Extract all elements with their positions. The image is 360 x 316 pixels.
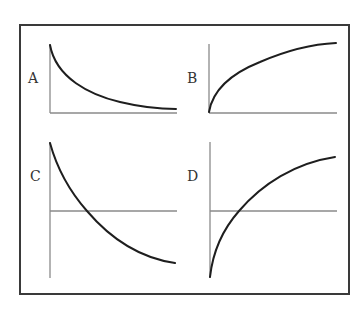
panel-b-label: B bbox=[187, 70, 197, 86]
panel-d-label: D bbox=[187, 168, 198, 184]
panel-c-decreasing-curve bbox=[50, 143, 175, 263]
figure-frame bbox=[20, 25, 349, 294]
panel-d-increasing-curve bbox=[210, 157, 335, 277]
panel-d: D bbox=[187, 142, 337, 278]
panel-b: B bbox=[187, 43, 337, 113]
panel-b-increasing-curve bbox=[209, 43, 336, 112]
panel-c: C bbox=[30, 142, 177, 278]
panel-a: A bbox=[27, 44, 177, 113]
panel-a-label: A bbox=[27, 70, 39, 86]
panel-a-decreasing-curve bbox=[50, 45, 176, 109]
four-panel-curve-diagram: A B C D bbox=[0, 0, 360, 316]
panel-c-label: C bbox=[30, 168, 41, 184]
